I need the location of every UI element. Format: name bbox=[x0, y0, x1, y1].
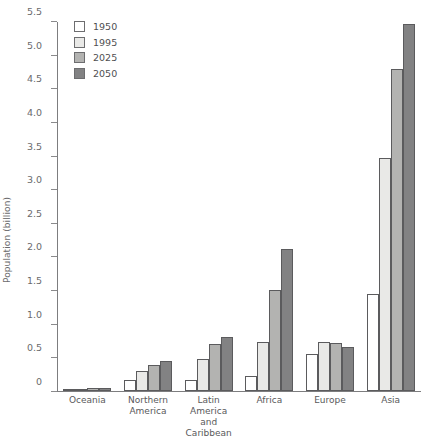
bar-2050 bbox=[160, 361, 172, 391]
bar-group: Latin America and Caribbean bbox=[178, 22, 239, 391]
bar-2050 bbox=[221, 337, 233, 391]
bar-1995 bbox=[318, 342, 330, 391]
y-tick-label: 0 bbox=[36, 376, 42, 387]
x-axis-label: Oceania bbox=[69, 395, 106, 406]
bar-2025 bbox=[87, 388, 99, 391]
bars bbox=[63, 22, 111, 391]
plot-area: 00.51.01.52.02.53.03.54.04.55.05.5 Ocean… bbox=[57, 22, 421, 392]
bar-1950 bbox=[185, 380, 197, 391]
y-tick-label: 1.5 bbox=[27, 275, 42, 286]
y-tick-label: 3.0 bbox=[27, 174, 42, 185]
bar-2050 bbox=[342, 347, 354, 391]
bar-1950 bbox=[124, 380, 136, 391]
bars bbox=[245, 22, 293, 391]
bar-1995 bbox=[136, 371, 148, 391]
bars bbox=[124, 22, 172, 391]
y-tick-label: 5.0 bbox=[27, 39, 42, 50]
x-axis-label: Northern America bbox=[128, 395, 168, 417]
bar-group: Asia bbox=[360, 22, 421, 391]
x-axis-line bbox=[57, 391, 421, 392]
bars bbox=[306, 22, 354, 391]
bar-group: Africa bbox=[239, 22, 300, 391]
bar-group: Northern America bbox=[118, 22, 179, 391]
y-tick-label: 1.0 bbox=[27, 308, 42, 319]
bar-2025 bbox=[330, 343, 342, 391]
x-axis-label: Asia bbox=[381, 395, 400, 406]
bar-1950 bbox=[63, 389, 75, 391]
bar-2025 bbox=[391, 69, 403, 391]
y-axis-title: Population (billion) bbox=[2, 150, 12, 330]
x-axis-label: Latin America and Caribbean bbox=[186, 395, 232, 439]
bars bbox=[185, 22, 233, 391]
bar-1950 bbox=[306, 354, 318, 391]
y-tick-label: 4.0 bbox=[27, 106, 42, 117]
y-tick-label: 5.5 bbox=[27, 6, 42, 17]
bar-group: Europe bbox=[300, 22, 361, 391]
y-tick-label: 0.5 bbox=[27, 342, 42, 353]
bar-2050 bbox=[281, 249, 293, 391]
y-tick-label: 2.0 bbox=[27, 241, 42, 252]
x-axis-label: Europe bbox=[314, 395, 346, 406]
bar-1995 bbox=[75, 389, 87, 391]
bars bbox=[367, 22, 415, 391]
bar-1950 bbox=[367, 294, 379, 391]
bar-1995 bbox=[379, 158, 391, 391]
bar-2050 bbox=[403, 24, 415, 391]
y-tick-label: 3.5 bbox=[27, 140, 42, 151]
bar-2050 bbox=[99, 388, 111, 391]
bar-1950 bbox=[245, 376, 257, 391]
bar-1995 bbox=[197, 359, 209, 391]
bar-groups: OceaniaNorthern AmericaLatin America and… bbox=[57, 22, 421, 391]
y-tick: 0 bbox=[51, 391, 57, 392]
bar-1995 bbox=[257, 342, 269, 391]
bar-group: Oceania bbox=[57, 22, 118, 391]
bar-2025 bbox=[148, 365, 160, 391]
y-tick-label: 2.5 bbox=[27, 207, 42, 218]
bar-2025 bbox=[269, 290, 281, 391]
x-axis-label: Africa bbox=[257, 395, 283, 406]
y-tick-label: 4.5 bbox=[27, 73, 42, 84]
bar-2025 bbox=[209, 344, 221, 391]
